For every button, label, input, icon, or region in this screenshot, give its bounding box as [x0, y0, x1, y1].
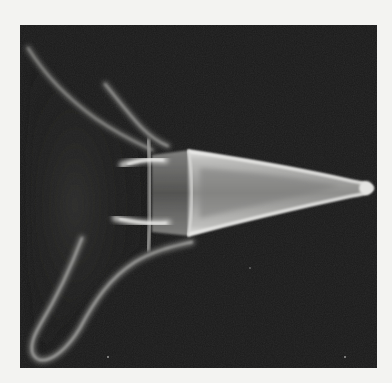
photograph: Bright conical body pointing right with …	[0, 0, 392, 383]
photo-canvas	[0, 0, 392, 383]
